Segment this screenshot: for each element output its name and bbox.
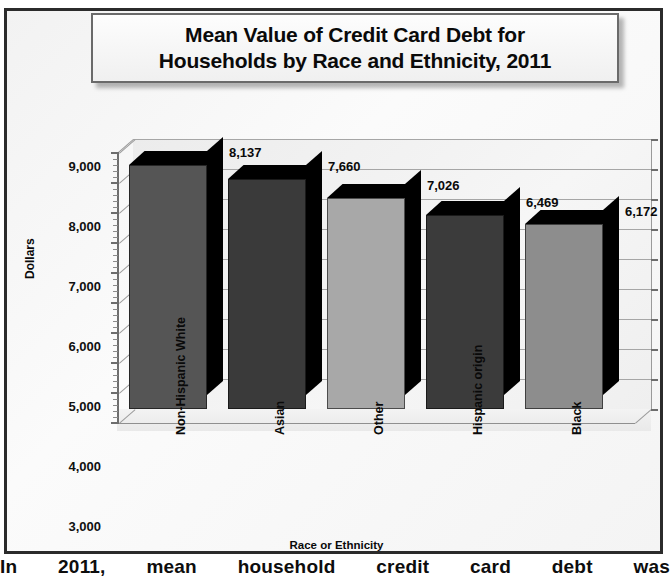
y-tick-label: 5,000 <box>68 399 101 414</box>
y-tick-label: 7,000 <box>68 279 101 294</box>
caption-text: In 2011, mean household credit card debt… <box>0 556 670 576</box>
y-tick-minor <box>113 351 118 352</box>
bar-top-face <box>525 210 619 224</box>
y-tick-right <box>651 349 658 351</box>
y-tick-minor <box>113 237 118 238</box>
caption-word: was <box>633 556 670 576</box>
y-tick-minor <box>113 309 118 310</box>
gridline <box>133 139 651 140</box>
y-tick-minor <box>113 345 118 346</box>
y-tick-right <box>651 199 658 201</box>
y-tick-label: 3,000 <box>68 519 101 534</box>
x-axis-title: Race or Ethnicity <box>7 539 666 551</box>
bar-front-face <box>228 179 306 409</box>
bar-value-label: 6,469 <box>526 195 559 210</box>
y-tick-minor <box>113 189 118 190</box>
y-tick-minor <box>113 177 118 178</box>
y-tick-minor <box>113 159 118 160</box>
y-tick-minor <box>113 405 118 406</box>
bar-1 <box>228 179 306 409</box>
bar-top-face <box>327 184 421 198</box>
y-axis-title: Dollars <box>23 238 37 279</box>
y-tick-minor <box>113 315 118 316</box>
bar-front-face <box>426 215 504 409</box>
chart-title-line-2: Households by Race and Ethnicity, 2011 <box>159 49 551 72</box>
bar-top-face <box>228 165 322 179</box>
chart-title-line-1: Mean Value of Credit Card Debt for <box>185 23 525 46</box>
bar-side-face <box>405 170 421 395</box>
bar-side-face <box>504 187 520 395</box>
bar-4 <box>525 224 603 409</box>
bar-top-face <box>129 151 223 165</box>
y-tick-label: 8,000 <box>68 219 101 234</box>
y-tick-minor <box>113 261 118 262</box>
y-tick-minor <box>113 171 118 172</box>
y-tick-minor <box>113 255 118 256</box>
caption-word: In <box>0 556 17 576</box>
caption-word: card <box>470 556 511 576</box>
bar-front-face <box>525 224 603 409</box>
y-tick-minor <box>113 267 118 268</box>
y-tick-minor <box>113 231 118 232</box>
bar-value-label: 8,137 <box>229 145 262 160</box>
caption-word: mean <box>146 556 196 576</box>
y-tick-minor <box>113 201 118 202</box>
caption-word: 2011, <box>58 556 106 576</box>
chart-frame: Mean Value of Credit Card Debt for House… <box>4 8 663 554</box>
y-tick-minor <box>113 291 118 292</box>
y-tick-right <box>651 139 658 141</box>
bar-value-label: 7,660 <box>328 159 361 174</box>
bar-front-face <box>129 165 207 409</box>
bar-3 <box>426 215 504 409</box>
x-axis-category-label: Asian <box>273 401 287 435</box>
y-tick-minor <box>113 285 118 286</box>
y-tick-minor <box>113 249 118 250</box>
caption-word: credit <box>376 556 429 576</box>
y-tick-minor <box>113 195 118 196</box>
y-tick-minor <box>113 417 118 418</box>
y-tick-minor <box>113 357 118 358</box>
y-tick-right <box>651 379 658 381</box>
bar-top-face <box>426 201 520 215</box>
bar-0 <box>129 165 207 409</box>
y-tick-minor <box>113 279 118 280</box>
bar-side-face <box>603 196 619 395</box>
x-axis-category-label: Black <box>570 402 584 435</box>
y-tick-minor <box>113 321 118 322</box>
bar-2 <box>327 198 405 409</box>
y-axis-line <box>117 153 119 423</box>
y-tick-minor <box>113 339 118 340</box>
x-axis-category-label: Other <box>372 402 386 435</box>
y-tick-right <box>651 409 658 411</box>
y-tick-minor <box>113 219 118 220</box>
y-tick-right <box>651 229 658 231</box>
y-tick-minor <box>113 375 118 376</box>
bar-front-face <box>327 198 405 409</box>
x-axis-category-label: Hispanic origin <box>471 345 485 435</box>
y-tick-minor <box>113 381 118 382</box>
y-tick-right <box>651 289 658 291</box>
y-tick-minor <box>113 387 118 388</box>
y-tick-label: 6,000 <box>68 339 101 354</box>
bar-side-face <box>306 151 322 395</box>
y-tick-minor <box>113 399 118 400</box>
chart-title-box: Mean Value of Credit Card Debt for House… <box>91 13 619 83</box>
bar-value-label: 7,026 <box>427 178 460 193</box>
y-tick-right <box>651 319 658 321</box>
caption-word: household <box>238 556 336 576</box>
bar-side-face <box>207 137 223 395</box>
chart-screenshot: Mean Value of Credit Card Debt for House… <box>0 0 670 576</box>
y-tick-minor <box>113 297 118 298</box>
y-tick-right <box>651 169 658 171</box>
y-tick-minor <box>113 165 118 166</box>
y-tick-minor <box>113 327 118 328</box>
y-tick-label: 4,000 <box>68 459 101 474</box>
y-tick-right <box>651 259 658 261</box>
y-tick-minor <box>113 411 118 412</box>
y-tick-minor <box>113 225 118 226</box>
caption-word: debt <box>552 556 593 576</box>
y-tick-minor <box>113 207 118 208</box>
chart-title: Mean Value of Credit Card Debt for House… <box>153 22 557 73</box>
plot-area: 01,0002,0003,0004,0005,0006,0007,0008,00… <box>117 139 651 431</box>
y-tick-minor <box>113 369 118 370</box>
